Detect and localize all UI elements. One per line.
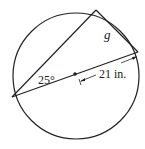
chord-label: g xyxy=(104,27,111,42)
angle-label: 25° xyxy=(38,73,55,87)
center-point xyxy=(73,72,77,76)
circle-diagram: 25° g 21 in. xyxy=(0,0,145,149)
tick-mark xyxy=(79,79,81,85)
arrowhead-left xyxy=(80,78,85,82)
chord-g xyxy=(96,10,138,52)
radius-label: 21 in. xyxy=(99,67,126,81)
